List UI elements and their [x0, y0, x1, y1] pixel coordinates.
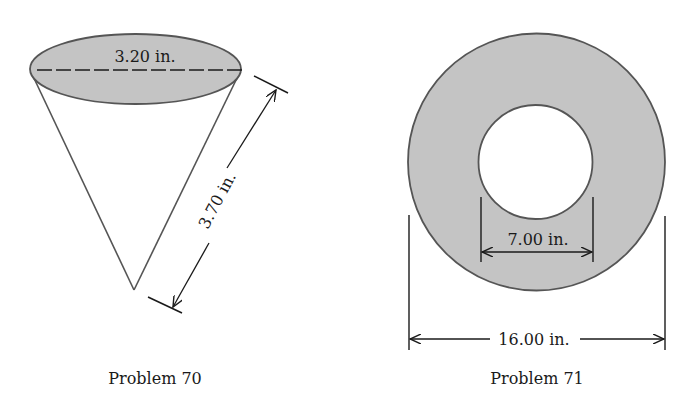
caption-problem-70: Problem 70	[108, 369, 202, 388]
cone-diameter-label: 3.20 in.	[114, 47, 175, 66]
slant-dim-line-upper	[227, 90, 276, 168]
caption-problem-71: Problem 71	[490, 369, 584, 388]
inner-diameter-label: 7.00 in.	[507, 230, 568, 249]
annulus-figure: 7.00 in. 16.00 in.	[408, 34, 665, 351]
figure-canvas: 3.20 in. 3.70 in. 7.00 in. 16.00 in.	[0, 0, 687, 419]
outer-diameter-label: 16.00 in.	[498, 330, 569, 349]
inner-circle	[479, 105, 593, 219]
cone-slant-label: 3.70 in.	[194, 169, 240, 232]
cone-left-side	[32, 74, 134, 290]
cone-top-ellipse	[30, 34, 241, 104]
slant-top-tick	[254, 76, 288, 93]
cone-figure: 3.20 in. 3.70 in.	[30, 34, 288, 313]
slant-dim-line-lower	[173, 243, 209, 307]
